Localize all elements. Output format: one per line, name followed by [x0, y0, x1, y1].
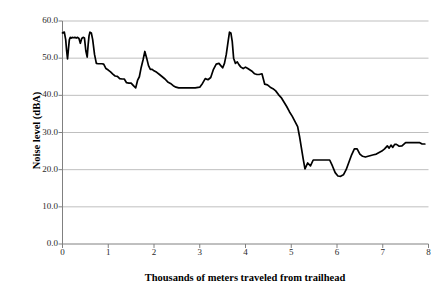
data-series-line	[63, 32, 425, 176]
plot-area	[0, 0, 444, 293]
chart-figure: Noise level (dBA) Thousands of meters tr…	[0, 0, 444, 293]
